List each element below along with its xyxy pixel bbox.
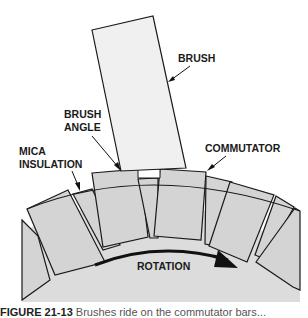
brush-label: BRUSH (178, 52, 215, 64)
rotation-label: ROTATION (137, 260, 190, 272)
commutator-diagram: BRUSH BRUSH ANGLE MICA INSULATION COMMUT… (0, 0, 308, 318)
figure-number: FIGURE 21-13 (0, 306, 73, 318)
mica-label-2: INSULATION (19, 158, 82, 170)
mica-label-1: MICA (19, 145, 46, 157)
figure-caption: FIGURE 21-13 Brushes ride on the commuta… (0, 306, 308, 318)
brush (92, 16, 186, 171)
commutator-arrowhead (207, 164, 215, 171)
caption-text: Brushes ride on the commutator bars... (76, 306, 266, 318)
brush-arrowhead (168, 76, 175, 82)
segment-center-right (154, 169, 206, 240)
brush-angle-label-1: BRUSH (64, 108, 101, 120)
commutator-label: COMMUTATOR (205, 142, 281, 154)
mica-arrowhead (75, 182, 80, 191)
brush-angle-label-2: ANGLE (64, 121, 101, 133)
